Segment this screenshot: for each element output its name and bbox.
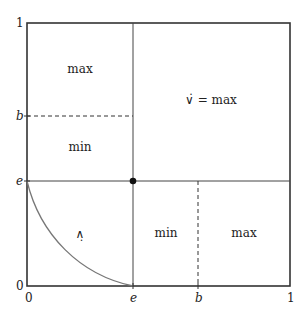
y-tick-b: b: [16, 109, 24, 123]
x-tick-b: b: [195, 291, 203, 305]
region-label-bottom-left: ∧̣: [76, 227, 85, 241]
x-tick-e: e: [130, 291, 137, 305]
region-label-top-right: ∨̇ = max: [185, 93, 237, 107]
region-label-bottom-middle-min: min: [155, 226, 178, 240]
region-label-bottom-right-max: max: [231, 226, 257, 240]
x-tick-1: 1: [287, 291, 295, 305]
intersection-point: [130, 178, 137, 185]
y-tick-0: 0: [16, 279, 24, 293]
x-tick-0: 0: [25, 291, 33, 305]
y-tick-1: 1: [16, 16, 24, 30]
y-tick-e: e: [16, 174, 23, 188]
region-label-top-left-min: min: [69, 140, 92, 154]
diagram-canvas: 1 b e 0 0 e b 1 max min ∨̇ = max ∧̣ min …: [0, 0, 307, 315]
region-label-top-left-max: max: [67, 62, 93, 76]
